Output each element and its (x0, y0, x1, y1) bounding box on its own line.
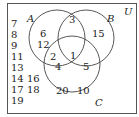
venn-diagram: U A B C 7 8 9 11 13 14 16 17 18 19 6 12 … (0, 0, 139, 117)
a-and-b-element: 3 (69, 14, 75, 25)
outside-element: 14 (11, 73, 24, 84)
set-b-label: B (106, 13, 114, 24)
b-only-element: 15 (92, 28, 105, 39)
c-only-element: 10 (77, 85, 90, 96)
set-a-label: A (26, 13, 34, 24)
a-and-c-element: 4 (55, 61, 61, 72)
c-only-element: 20 (56, 85, 69, 96)
a-only-element: 12 (37, 39, 50, 50)
outside-element: 11 (11, 51, 24, 62)
outside-element: 16 (27, 73, 40, 84)
outside-element: 17 (11, 84, 24, 95)
outside-element: 7 (11, 18, 17, 29)
set-c-circle (44, 36, 100, 92)
universe-label: U (124, 6, 133, 17)
set-c-label: C (95, 97, 103, 108)
outside-element: 9 (11, 40, 17, 51)
set-b-circle (58, 10, 114, 66)
b-and-c-element: 5 (83, 61, 89, 72)
outside-element: 19 (11, 95, 24, 106)
outside-element: 18 (27, 84, 40, 95)
a-only-element: 6 (40, 28, 46, 39)
set-a-circle (29, 10, 85, 66)
a-b-c-element: 1 (70, 50, 76, 61)
outside-element: 8 (11, 29, 17, 40)
outside-element: 13 (11, 62, 24, 73)
